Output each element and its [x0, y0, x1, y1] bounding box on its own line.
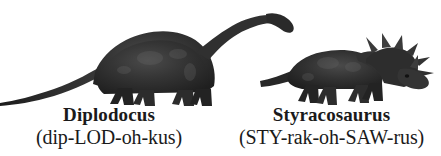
styracosaurus-caption: Styracosaurus (STY-rak-oh-SAW-rus): [222, 104, 441, 149]
dinosaur-comparison-figure: Diplodocus (dip-LOD-oh-kus) Styracosauru…: [0, 0, 441, 156]
diplodocus-illustration: [0, 0, 300, 110]
styracosaurus-silhouette-icon: [258, 33, 438, 110]
diplodocus-silhouette-icon: [0, 0, 300, 110]
diplodocus-pronunciation-label: (dip-LOD-oh-kus): [0, 125, 218, 149]
styracosaurus-name-label: Styracosaurus: [222, 104, 441, 125]
styracosaurus-illustration: [258, 33, 438, 110]
diplodocus-caption: Diplodocus (dip-LOD-oh-kus): [0, 104, 218, 149]
styracosaurus-pronunciation-label: (STY-rak-oh-SAW-rus): [222, 125, 441, 149]
diplodocus-name-label: Diplodocus: [0, 104, 218, 125]
